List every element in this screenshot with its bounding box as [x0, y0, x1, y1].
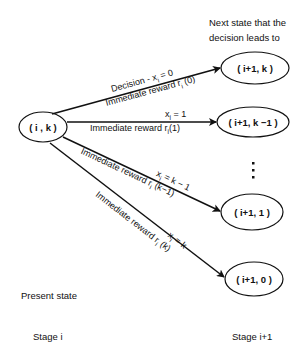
target-node-1: ( i+1, 1 )	[221, 194, 283, 230]
present-state-label: Present state	[21, 288, 77, 303]
target-node-0: ( i+1, 0 )	[225, 262, 283, 296]
reward-label: Immediate reward ri (k)	[93, 189, 173, 255]
next-state-header-line2: decision leads to	[209, 30, 280, 45]
reward-label: Immediate reward ri(1)	[90, 123, 180, 135]
decision-label: xi = 1	[165, 109, 186, 121]
source-node-label: ( i , k )	[29, 122, 56, 133]
next-state-header-line1: Next state that the	[209, 15, 286, 30]
target-node-k: ( i+1, k )	[221, 52, 289, 84]
target-node-label: ( i+1, 0 )	[236, 274, 272, 285]
ellipsis-dots	[252, 162, 255, 179]
target-node-label: ( i+1, k −1 )	[228, 117, 277, 128]
stage-i-label: Stage i	[33, 329, 63, 344]
edge-0-labels: Decision - xi = 0 Immediate reward ri (0…	[101, 62, 197, 110]
stage-i-plus-1-label: Stage i+1	[232, 329, 272, 344]
target-node-label: ( i+1, k )	[237, 63, 273, 74]
source-node: ( i , k )	[19, 112, 67, 142]
edge-arrow-k	[50, 143, 224, 277]
dp-diagram: ( i , k ) ( i+1, k ) ( i+1, k −1 ) ( i+1…	[0, 0, 304, 362]
target-node-label: ( i+1, 1 )	[234, 207, 270, 218]
target-node-k-minus-1: ( i+1, k −1 )	[217, 107, 289, 137]
